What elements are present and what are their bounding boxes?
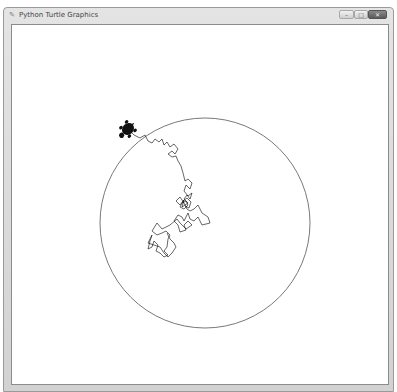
random-walk-path — [128, 129, 210, 257]
close-button[interactable]: ✕ — [368, 10, 387, 19]
title-bar[interactable]: ✎ Python Turtle Graphics – □ ✕ — [4, 8, 393, 24]
turtle-window: ✎ Python Turtle Graphics – □ ✕ — [3, 7, 394, 392]
turtle-canvas[interactable] — [11, 24, 389, 385]
turtle-cursor-icon — [114, 117, 139, 142]
window-title: Python Turtle Graphics — [19, 10, 98, 20]
tk-feather-icon: ✎ — [9, 11, 17, 19]
minimize-button[interactable]: – — [339, 10, 354, 19]
maximize-button[interactable]: □ — [354, 10, 368, 19]
drawing-surface — [12, 25, 388, 384]
drawn-circle — [100, 118, 310, 328]
